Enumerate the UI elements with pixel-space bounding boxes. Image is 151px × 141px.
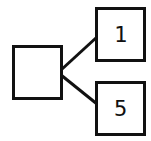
child-node-1-label: 1 <box>98 10 143 59</box>
root-node <box>12 45 63 100</box>
edge-root-to-child-5 <box>61 75 97 104</box>
child-node-5-label: 5 <box>98 84 143 133</box>
child-node-5: 5 <box>95 81 146 136</box>
edge-root-to-child-1 <box>61 37 97 70</box>
child-node-1: 1 <box>95 7 146 62</box>
root-node-label <box>15 48 60 97</box>
